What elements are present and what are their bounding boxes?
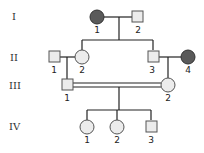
- individual-iv-3: [146, 121, 157, 132]
- id-ii-2: 2: [79, 65, 85, 75]
- id-ii-4: 4: [185, 65, 191, 75]
- id-iv-1: 1: [84, 135, 90, 145]
- id-i-2: 2: [135, 25, 141, 35]
- individual-ii-3: [148, 51, 159, 62]
- individual-i-2: [132, 11, 143, 22]
- id-ii-1: 1: [51, 65, 57, 75]
- individual-iv-1: [80, 120, 94, 134]
- id-ii-3: 3: [149, 65, 155, 75]
- id-iii-1: 1: [64, 93, 70, 103]
- individual-ii-2: [75, 50, 89, 64]
- id-iii-2: 2: [165, 93, 171, 103]
- pedigree-diagram: I II III IV 1 2 1 2 3 4 1 2 1 2 3: [0, 0, 204, 153]
- generation-label-ii: II: [10, 52, 18, 63]
- individual-iii-2: [161, 78, 175, 92]
- individual-i-1: [90, 10, 104, 24]
- generation-label-iv: IV: [9, 121, 21, 132]
- individual-iv-2: [110, 120, 124, 134]
- id-i-1: 1: [94, 25, 100, 35]
- id-iv-2: 2: [114, 135, 120, 145]
- generation-label-iii: III: [9, 80, 21, 91]
- individual-ii-1: [49, 51, 60, 62]
- individual-ii-4: [181, 50, 195, 64]
- id-iv-3: 3: [148, 135, 154, 145]
- individual-iii-1: [62, 79, 73, 90]
- generation-label-i: I: [12, 11, 16, 22]
